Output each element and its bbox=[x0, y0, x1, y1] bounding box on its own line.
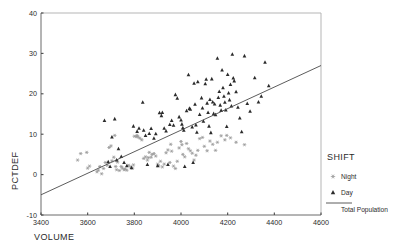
y-tick-label: 0 bbox=[33, 170, 37, 179]
y-tick-label: 40 bbox=[29, 9, 37, 18]
legend-label-night: Night bbox=[341, 173, 357, 181]
y-axis-title: PCTDEF bbox=[10, 151, 20, 190]
x-tick-label: 4200 bbox=[220, 218, 236, 227]
y-tick-label: 20 bbox=[29, 89, 37, 98]
legend-label-day: Day bbox=[341, 189, 353, 197]
chart-background bbox=[0, 0, 399, 252]
legend-title: SHIFT bbox=[327, 152, 355, 162]
x-axis-title: VOLUME bbox=[34, 232, 74, 242]
x-tick-label: 3400 bbox=[33, 218, 49, 227]
x-tick-label: 3800 bbox=[126, 218, 142, 227]
scatter-plot-figure: -10010203040 340036003800400042004400460… bbox=[0, 0, 399, 252]
legend-label-total-population: Total Population bbox=[341, 206, 388, 214]
y-tick-label: 30 bbox=[29, 49, 37, 58]
x-tick-label: 4000 bbox=[173, 218, 189, 227]
chart-svg: -10010203040 340036003800400042004400460… bbox=[0, 0, 399, 252]
x-tick-label: 3600 bbox=[80, 218, 96, 227]
x-tick-label: 4400 bbox=[266, 218, 282, 227]
y-tick-label: 10 bbox=[29, 130, 37, 139]
x-tick-label: 4600 bbox=[313, 218, 329, 227]
